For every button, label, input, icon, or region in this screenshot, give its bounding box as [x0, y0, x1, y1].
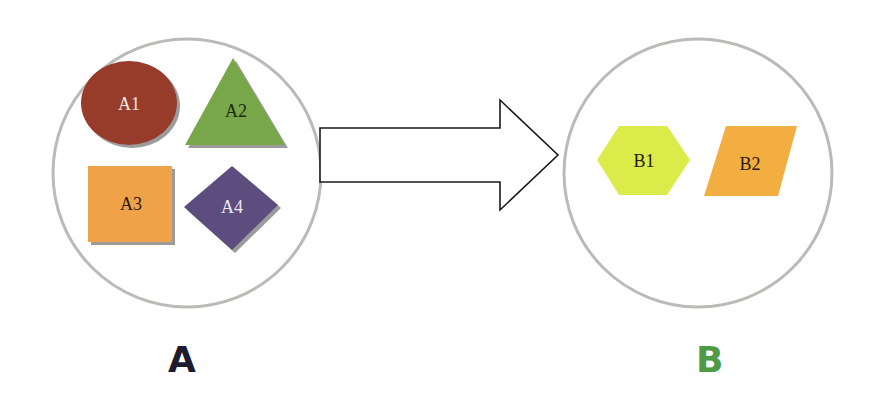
group-a-container: A1 A2 A3 A4	[53, 39, 321, 307]
shape-b2-label: B2	[739, 154, 760, 174]
group-b-container: B1 B2	[564, 39, 832, 307]
shape-b1-label: B1	[633, 151, 654, 171]
shape-a1-label: A1	[118, 94, 140, 114]
diagram-canvas: A1 A2 A3 A4 B1	[0, 0, 880, 402]
group-b-circle	[564, 39, 832, 307]
shape-a3-label: A3	[120, 194, 142, 214]
group-b-title: B	[696, 342, 723, 378]
shape-a4-label: A4	[221, 197, 243, 217]
shape-a2-label: A2	[225, 101, 247, 121]
group-a-title: A	[168, 342, 196, 378]
transform-arrow-icon	[320, 100, 558, 210]
diagram-svg: A1 A2 A3 A4 B1	[0, 0, 880, 402]
